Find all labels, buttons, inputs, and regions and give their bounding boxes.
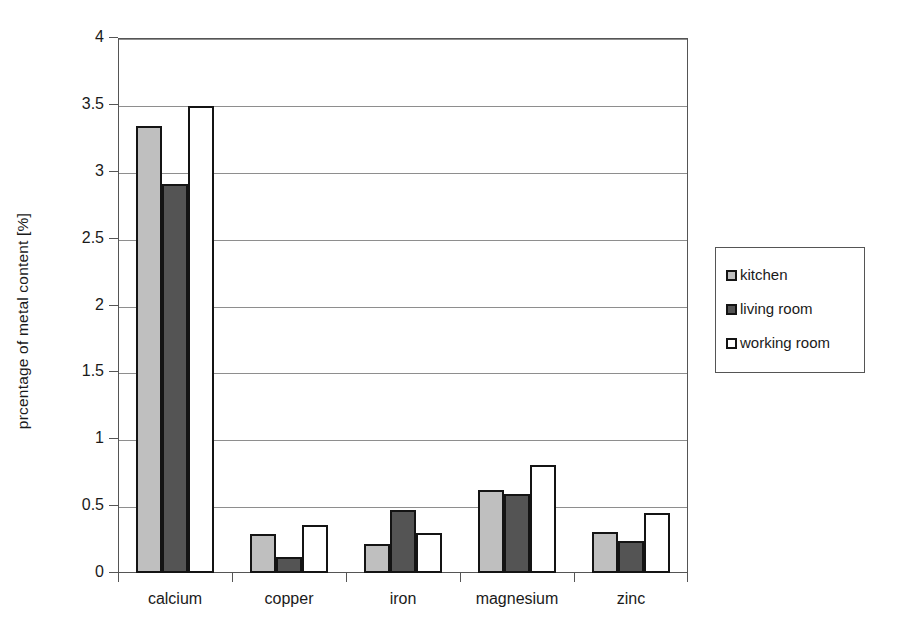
legend-label: living room bbox=[740, 300, 813, 318]
legend-item-working-room[interactable]: working room bbox=[726, 326, 856, 360]
y-axis-tick-label: 3.5 bbox=[82, 94, 104, 114]
bar-copper-living-room[interactable] bbox=[276, 557, 302, 573]
bar-copper-working-room[interactable] bbox=[302, 525, 328, 573]
y-axis-tick-label: 1.5 bbox=[82, 361, 104, 381]
y-axis-tick-mark bbox=[109, 438, 118, 439]
y-axis-tick-label: 4 bbox=[95, 27, 104, 47]
bar-group bbox=[574, 38, 688, 573]
y-axis-tick-label: 1 bbox=[95, 428, 104, 448]
bar-calcium-kitchen[interactable] bbox=[136, 126, 162, 573]
x-axis-labels: calciumcopperironmagnesiumzinc bbox=[118, 588, 688, 618]
y-axis-tick-label: 2 bbox=[95, 295, 104, 315]
legend-item-kitchen[interactable]: kitchen bbox=[726, 258, 856, 292]
y-axis-tick-mark bbox=[109, 238, 118, 239]
bar-group bbox=[232, 38, 346, 573]
x-axis-label-iron: iron bbox=[346, 588, 460, 610]
chart-legend: kitchenliving roomworking room bbox=[715, 247, 865, 373]
x-axis-tick-mark bbox=[687, 573, 688, 582]
chart-figure: prcentage of metal content [%] 00.511.52… bbox=[0, 0, 908, 642]
bar-iron-living-room[interactable] bbox=[390, 510, 416, 573]
bar-zinc-living-room[interactable] bbox=[618, 541, 644, 573]
bar-calcium-working-room[interactable] bbox=[188, 106, 214, 573]
y-axis-tick-label: 3 bbox=[95, 161, 104, 181]
bar-zinc-kitchen[interactable] bbox=[592, 532, 618, 573]
x-axis-tick-mark bbox=[574, 573, 575, 582]
bar-copper-kitchen[interactable] bbox=[250, 534, 276, 573]
y-axis-tick-label: 2.5 bbox=[82, 228, 104, 248]
y-axis-tick-label: 0 bbox=[95, 562, 104, 582]
bar-zinc-working-room[interactable] bbox=[644, 513, 670, 573]
y-axis-title: prcentage of metal content [%] bbox=[0, 0, 46, 642]
x-axis-label-calcium: calcium bbox=[118, 588, 232, 610]
y-axis-tick-mark bbox=[109, 572, 118, 573]
y-axis-tick-mark bbox=[109, 37, 118, 38]
y-axis-tick-mark bbox=[109, 104, 118, 105]
y-axis-tick-mark bbox=[109, 505, 118, 506]
y-axis-tick-label: 0.5 bbox=[82, 495, 104, 515]
legend-swatch-icon bbox=[726, 304, 737, 315]
bars-layer bbox=[118, 38, 688, 573]
x-axis-tick-mark bbox=[232, 573, 233, 582]
bar-iron-kitchen[interactable] bbox=[364, 544, 390, 573]
bar-calcium-living-room[interactable] bbox=[162, 184, 188, 573]
bar-group bbox=[346, 38, 460, 573]
x-axis-label-magnesium: magnesium bbox=[460, 588, 574, 610]
x-axis-label-zinc: zinc bbox=[574, 588, 688, 610]
x-axis-tick-mark bbox=[346, 573, 347, 582]
y-axis-tick-mark bbox=[109, 171, 118, 172]
x-axis-tick-mark bbox=[118, 573, 119, 582]
bar-magnesium-kitchen[interactable] bbox=[478, 490, 504, 573]
bar-magnesium-working-room[interactable] bbox=[530, 465, 556, 573]
bar-iron-working-room[interactable] bbox=[416, 533, 442, 573]
legend-item-living-room[interactable]: living room bbox=[726, 292, 856, 326]
legend-label: working room bbox=[740, 334, 830, 352]
y-axis: 00.511.522.533.54 bbox=[60, 38, 118, 573]
x-axis-tick-mark bbox=[460, 573, 461, 582]
legend-swatch-icon bbox=[726, 270, 737, 281]
legend-swatch-icon bbox=[726, 338, 737, 349]
bar-group bbox=[460, 38, 574, 573]
x-axis bbox=[118, 573, 688, 585]
x-axis-label-copper: copper bbox=[232, 588, 346, 610]
y-axis-tick-mark bbox=[109, 371, 118, 372]
legend-label: kitchen bbox=[740, 266, 788, 284]
bar-magnesium-living-room[interactable] bbox=[504, 494, 530, 573]
y-axis-tick-mark bbox=[109, 305, 118, 306]
bar-group bbox=[118, 38, 232, 573]
